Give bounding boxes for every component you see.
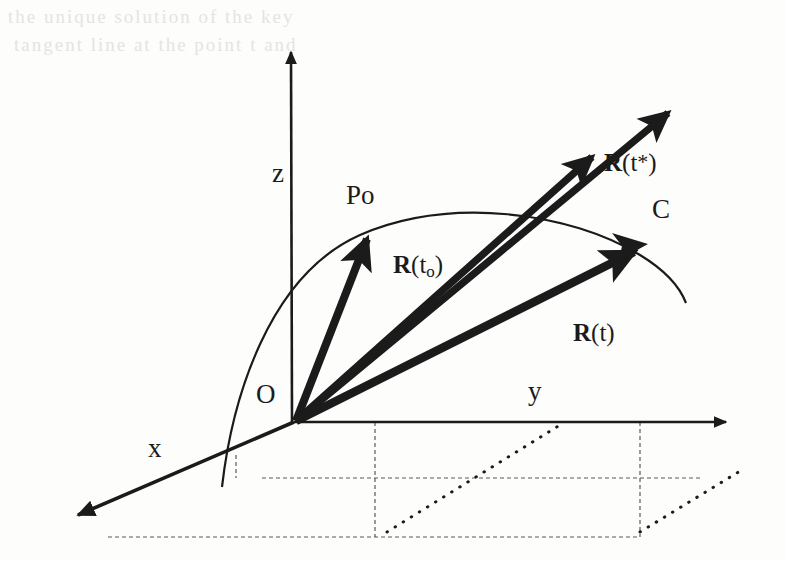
vector-label-R-tstar-open: (t: [622, 149, 637, 176]
vector-label-R-t0-subscript: o: [426, 262, 435, 281]
vector-R-tstar: [296, 157, 592, 421]
axis-lines: [78, 52, 726, 515]
x-axis: [78, 422, 294, 515]
y-axis-label: y: [528, 378, 542, 405]
curve-label-C: C: [652, 196, 670, 223]
vector-label-R-t0: R(to): [393, 252, 443, 280]
vector-label-R-tstar: R(t*): [604, 150, 657, 175]
vector-label-R-t: R(t): [573, 320, 615, 345]
vector-label-R-tstar-superscript: *: [637, 149, 648, 174]
vector-label-R-t-bold: R: [573, 319, 591, 346]
vector-label-R-t0-open: (t: [411, 251, 426, 278]
x-axis-label: x: [148, 435, 162, 462]
initial-point-label: Po: [346, 182, 375, 209]
vector-label-R-t-open: (t: [591, 319, 606, 346]
z-axis: [291, 52, 292, 422]
vector-label-R-t0-bold: R: [393, 251, 411, 278]
figure-canvas: the unique solution of the key tangent l…: [0, 0, 785, 561]
vector-label-R-t-close: ): [606, 319, 614, 346]
vector-label-R-tstar-bold: R: [604, 149, 622, 176]
z-axis-label: z: [272, 160, 284, 187]
origin-label: O: [256, 381, 276, 408]
vector-label-R-tstar-close: ): [648, 149, 656, 176]
ground-plane-guides: [108, 422, 700, 537]
vector-diagram-svg: [0, 0, 785, 561]
vector-label-R-t0-close: ): [435, 251, 443, 278]
